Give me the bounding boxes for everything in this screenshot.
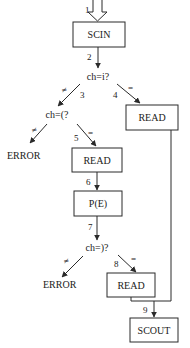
edge-5-condition: = xyxy=(88,128,93,138)
node-read-right: READ xyxy=(126,105,178,130)
edge-3-condition: ≠ xyxy=(62,85,67,95)
edge-close-not-equal: ≠ xyxy=(62,256,83,277)
node-read-mid-label: READ xyxy=(83,155,110,166)
node-pe: P(E) xyxy=(74,191,122,216)
flowchart: 1 SCIN 2 ch=i? ≠ 3 = 4 READ ch=(? ≠ ERRO… xyxy=(0,0,190,348)
node-scin: SCIN xyxy=(73,22,125,47)
node-read-mid: READ xyxy=(72,148,122,172)
node-cond-i: ch=i? xyxy=(87,71,110,82)
node-error-1: ERROR xyxy=(7,150,41,161)
edge-close-ne-condition: ≠ xyxy=(64,256,69,266)
node-pe-label: P(E) xyxy=(89,198,107,210)
edge-open-ne-condition: ≠ xyxy=(32,125,37,135)
node-read-right-label: READ xyxy=(138,112,165,123)
edge-2-number: 2 xyxy=(87,52,92,62)
edge-8-number: 8 xyxy=(114,259,119,269)
edge-5: = 5 xyxy=(74,124,96,146)
edge-4: = 4 xyxy=(113,83,140,103)
edge-open-not-equal: ≠ xyxy=(30,124,47,143)
edge-3-number: 3 xyxy=(80,90,85,100)
edge-2: 2 xyxy=(87,47,98,68)
node-error-2: ERROR xyxy=(43,279,77,290)
node-read-low-label: READ xyxy=(117,280,144,291)
edge-9: 9 xyxy=(143,301,154,317)
edge-6-number: 6 xyxy=(86,177,91,187)
node-cond-close: ch=)? xyxy=(86,242,109,254)
edge-4-condition: = xyxy=(128,83,133,93)
edge-6: 6 xyxy=(86,172,97,190)
edge-4-number: 4 xyxy=(113,90,118,100)
node-read-low: READ xyxy=(107,273,155,297)
edge-8: = 8 xyxy=(114,254,136,272)
edge-8-condition: = xyxy=(131,254,136,264)
node-scout: SCOUT xyxy=(130,318,178,342)
node-scin-label: SCIN xyxy=(88,29,111,40)
node-cond-open: ch=(? xyxy=(46,109,69,121)
edge-1-entry-arrow: 1 xyxy=(85,0,107,21)
edge-9-number: 9 xyxy=(143,305,148,315)
edge-7-number: 7 xyxy=(88,222,93,232)
node-scout-label: SCOUT xyxy=(138,325,171,336)
edge-3: ≠ 3 xyxy=(58,84,85,106)
edge-5-number: 5 xyxy=(74,133,79,143)
edge-7: 7 xyxy=(88,216,97,240)
edge-1-number: 1 xyxy=(85,5,90,15)
